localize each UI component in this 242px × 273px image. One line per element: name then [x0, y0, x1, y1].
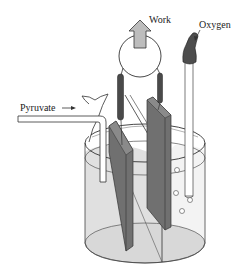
pyruvate-arrow-icon: [62, 106, 76, 110]
right-electrode: [147, 97, 171, 230]
work-label: Work: [149, 15, 171, 25]
pyruvate-label: Pyruvate: [20, 103, 56, 113]
oxygen-label: Oxygen: [199, 20, 231, 30]
fuel-cell-diagram: [0, 0, 242, 273]
